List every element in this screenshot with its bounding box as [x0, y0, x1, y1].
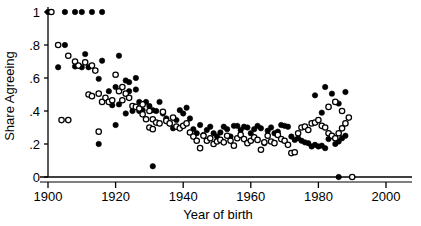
data-point-filled — [218, 130, 223, 135]
data-point-filled — [184, 105, 189, 110]
y-axis-title: Share Agreeing — [2, 51, 17, 141]
data-point-filled — [319, 110, 324, 115]
data-point-filled — [343, 133, 348, 138]
data-point-filled — [336, 174, 341, 179]
data-point-open — [49, 9, 54, 14]
data-point-filled — [322, 145, 327, 150]
data-point-open — [228, 138, 233, 143]
data-point-open — [262, 140, 267, 145]
data-point-filled — [82, 51, 87, 56]
data-point-open — [126, 95, 131, 100]
data-point-filled — [150, 164, 155, 169]
data-point-open — [150, 126, 155, 131]
data-point-open — [160, 109, 165, 114]
data-point-open — [255, 137, 260, 142]
data-point-open — [170, 115, 175, 120]
data-point-filled — [157, 99, 162, 104]
data-point-open — [184, 121, 189, 126]
data-point-open — [89, 93, 94, 98]
data-point-open — [113, 72, 118, 77]
x-axis-tick-label: 1940 — [169, 189, 198, 204]
scatter-chart: 0.2.4.6.81 190019201940196019802000 Shar… — [0, 0, 421, 226]
data-point-filled — [116, 53, 121, 58]
data-point-open — [76, 63, 81, 68]
data-point-filled — [123, 111, 128, 116]
y-axis-tick-label: 0 — [33, 170, 40, 185]
data-point-open — [346, 115, 351, 120]
y-axis-tick-label: .6 — [29, 71, 40, 86]
data-point-open — [343, 121, 348, 126]
data-point-open — [197, 145, 202, 150]
y-axis-tick-label: .2 — [29, 137, 40, 152]
y-axis-tick-label: .8 — [29, 38, 40, 53]
data-point-open — [167, 121, 172, 126]
data-point-filled — [79, 9, 84, 14]
data-point-open — [157, 121, 162, 126]
data-point-filled — [187, 116, 192, 121]
data-point-open — [285, 142, 290, 147]
data-point-open — [66, 117, 71, 122]
data-point-open — [306, 127, 311, 132]
x-axis-tick-label: 1920 — [101, 189, 130, 204]
data-point-open — [120, 98, 125, 103]
data-point-open — [96, 91, 101, 96]
data-point-filled — [197, 122, 202, 127]
data-point-open — [140, 102, 145, 107]
data-point-filled — [99, 58, 104, 63]
data-point-open — [295, 131, 300, 136]
data-point-open — [110, 98, 115, 103]
data-point-filled — [96, 76, 101, 81]
data-point-filled — [126, 79, 131, 84]
data-point-open — [201, 133, 206, 138]
data-point-filled — [62, 42, 67, 47]
y-axis-tick-label: .4 — [29, 104, 40, 119]
data-point-open — [316, 117, 321, 122]
data-point-open — [96, 129, 101, 134]
data-point-open — [143, 117, 148, 122]
data-point-open — [147, 108, 152, 113]
data-point-filled — [72, 9, 77, 14]
data-point-filled — [208, 124, 213, 129]
data-point-filled — [329, 91, 334, 96]
data-point-open — [333, 99, 338, 104]
data-point-filled — [106, 89, 111, 94]
data-point-filled — [55, 65, 60, 70]
data-point-filled — [62, 9, 67, 14]
data-point-filled — [99, 9, 104, 14]
data-point-open — [339, 126, 344, 131]
data-point-open — [59, 117, 64, 122]
data-point-open — [339, 108, 344, 113]
data-point-filled — [258, 126, 263, 131]
x-axis-tick-label: 2000 — [372, 189, 401, 204]
data-point-filled — [153, 108, 158, 113]
data-point-filled — [113, 122, 118, 127]
data-point-open — [55, 42, 60, 47]
data-point-filled — [89, 9, 94, 14]
data-point-open — [224, 133, 229, 138]
data-point-open — [272, 140, 277, 145]
data-point-open — [221, 140, 226, 145]
data-point-open — [120, 84, 125, 89]
data-point-open — [336, 131, 341, 136]
data-point-open — [66, 53, 71, 58]
data-point-filled — [285, 124, 290, 129]
x-axis-tick-label: 1980 — [304, 189, 333, 204]
data-point-open — [265, 133, 270, 138]
data-point-open — [350, 174, 355, 179]
data-point-open — [140, 112, 145, 117]
data-point-filled — [343, 89, 348, 94]
data-point-open — [93, 68, 98, 73]
data-point-filled — [224, 126, 229, 131]
data-point-filled — [181, 111, 186, 116]
data-point-filled — [96, 141, 101, 146]
y-axis-tick-label: 1 — [33, 5, 40, 20]
x-axis-tick-label: 1960 — [236, 189, 265, 204]
data-point-filled — [268, 125, 273, 130]
chart-canvas: 0.2.4.6.81 190019201940196019802000 Shar… — [0, 0, 421, 226]
data-point-filled — [312, 93, 317, 98]
data-point-open — [333, 136, 338, 141]
chart-background — [0, 0, 421, 226]
data-point-open — [326, 104, 331, 109]
data-point-filled — [245, 125, 250, 130]
data-point-open — [208, 136, 213, 141]
